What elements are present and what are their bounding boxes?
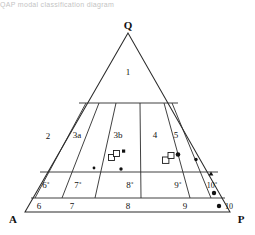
field-label-3a: 3a (73, 130, 82, 140)
data-point-open-square (114, 151, 120, 157)
data-point-filled-dot (93, 167, 96, 170)
data-point-filled-dot (217, 204, 221, 208)
corner-label-q: Q (124, 19, 133, 31)
field-label-2: 2 (46, 131, 51, 141)
field-label-6-prime: 6˚ (42, 180, 50, 190)
field-label-3b: 3b (114, 130, 124, 140)
field-label-5: 5 (174, 130, 179, 140)
field-label-7-prime: 7˚ (74, 180, 82, 190)
diagram-canvas: Q A P 1 2 3a 3b 4 5 6˚ 7˚ 8˚ 9˚ 10˚ 6 7 … (0, 0, 255, 235)
data-point-filled-dot (194, 158, 197, 161)
corner-label-p: P (238, 213, 245, 225)
corner-label-a: A (9, 213, 17, 225)
field-label-8: 8 (126, 201, 131, 211)
field-label-8-prime: 8˚ (126, 180, 134, 190)
field-label-4: 4 (153, 130, 158, 140)
field-label-10-prime: 10˚ (207, 181, 218, 190)
qap-ternary-diagram: Q A P 1 2 3a 3b 4 5 6˚ 7˚ 8˚ 9˚ 10˚ 6 7 … (0, 0, 255, 235)
data-point-filled-square (122, 150, 125, 153)
data-point-filled-dot (119, 167, 122, 170)
field-label-9-prime: 9˚ (174, 180, 182, 190)
radial-divider-a90 (140, 103, 141, 198)
field-label-9: 9 (183, 201, 188, 211)
radial-divider-a65 (95, 103, 116, 198)
data-point-filled-dot (176, 152, 181, 157)
field-label-1: 1 (126, 67, 131, 77)
field-label-7: 7 (70, 201, 75, 211)
data-point-open-square (168, 153, 174, 159)
data-point-filled-dot (212, 191, 216, 195)
field-label-10: 10 (225, 202, 233, 211)
field-label-6: 6 (37, 201, 42, 211)
